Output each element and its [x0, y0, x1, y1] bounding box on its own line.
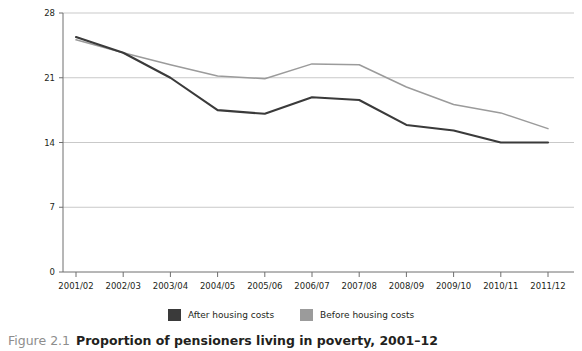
y-tick-label: 0: [29, 267, 55, 277]
x-tick-label: 2011/12: [520, 281, 576, 292]
y-tick-label: 7: [29, 202, 55, 212]
legend-label-after-housing-costs: After housing costs: [188, 310, 274, 320]
series-line-before-housing-costs: [76, 40, 548, 129]
caption-figure-number: Figure 2.1: [8, 333, 70, 348]
series-line-after-housing-costs: [76, 37, 548, 142]
y-axis-title: Proportion in poverty (%): [6, 0, 20, 28]
legend-item-before-housing-costs: Before housing costs: [300, 309, 414, 321]
legend-item-after-housing-costs: After housing costs: [168, 309, 274, 321]
chart-svg: [0, 0, 582, 300]
y-tick-label: 21: [29, 73, 55, 83]
chart-plot-area: Proportion in poverty (%) 071421282001/0…: [0, 0, 582, 300]
figure-container: Proportion in poverty (%) 071421282001/0…: [0, 0, 582, 351]
y-tick-label: 14: [29, 138, 55, 148]
chart-legend: After housing costs Before housing costs: [0, 306, 582, 324]
caption-title: Proportion of pensioners living in pover…: [76, 333, 438, 348]
legend-label-before-housing-costs: Before housing costs: [320, 310, 414, 320]
y-tick-label: 28: [29, 8, 55, 18]
figure-caption: Figure 2.1 Proportion of pensioners livi…: [0, 330, 582, 351]
legend-swatch-after-housing-costs: [168, 309, 181, 321]
legend-swatch-before-housing-costs: [300, 309, 313, 321]
